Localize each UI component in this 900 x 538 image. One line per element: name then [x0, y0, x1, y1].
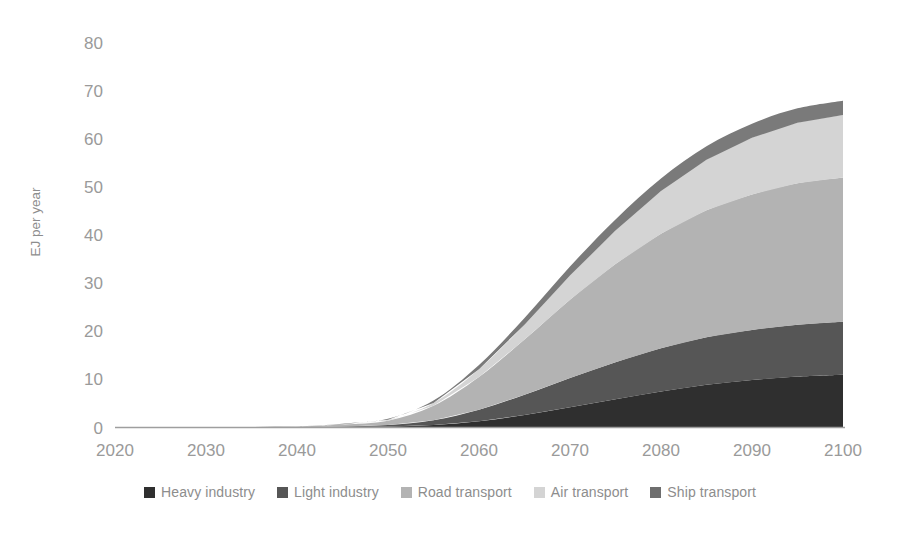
y-axis-tick-label: 70 [84, 82, 103, 101]
y-axis-tick-label: 60 [84, 130, 103, 149]
legend-item-label: Ship transport [667, 484, 756, 500]
legend-item-label: Road transport [418, 484, 512, 500]
chart-container: 80706050403020100 2020203020402050206020… [0, 0, 900, 538]
legend-item-air-transport[interactable]: Air transport [534, 484, 629, 500]
stacked-area-chart: 80706050403020100 2020203020402050206020… [0, 0, 900, 538]
y-axis-tick-label: 10 [84, 370, 103, 389]
legend-swatch-icon [144, 487, 155, 498]
legend-swatch-icon [650, 487, 661, 498]
legend-item-label: Light industry [294, 484, 379, 500]
y-axis-tick-label: 20 [84, 322, 103, 341]
x-axis-tick-label: 2050 [369, 441, 407, 460]
y-axis-tick-label: 80 [84, 34, 103, 53]
legend-swatch-icon [277, 487, 288, 498]
legend-item-road-transport[interactable]: Road transport [401, 484, 512, 500]
legend-item-light-industry[interactable]: Light industry [277, 484, 379, 500]
legend-swatch-icon [401, 487, 412, 498]
chart-legend: Heavy industryLight industryRoad transpo… [0, 484, 900, 500]
area-series-group [115, 101, 843, 428]
legend-swatch-icon [534, 487, 545, 498]
x-axis-tick-label: 2100 [824, 441, 862, 460]
x-axis-tick-label: 2030 [187, 441, 225, 460]
y-axis-tick-labels: 80706050403020100 [84, 34, 103, 438]
legend-item-label: Air transport [551, 484, 629, 500]
x-axis-tick-label: 2070 [551, 441, 589, 460]
x-axis-tick-label: 2040 [278, 441, 316, 460]
legend-item-label: Heavy industry [161, 484, 255, 500]
y-axis-tick-label: 0 [94, 419, 103, 438]
y-axis-tick-label: 30 [84, 274, 103, 293]
x-axis-tick-labels: 202020302040205020602070208020902100 [96, 441, 862, 460]
y-axis-tick-label: 50 [84, 178, 103, 197]
x-axis-tick-label: 2060 [460, 441, 498, 460]
x-axis-tick-label: 2090 [733, 441, 771, 460]
legend-item-heavy-industry[interactable]: Heavy industry [144, 484, 255, 500]
y-axis-title: EJ per year [28, 187, 43, 257]
x-axis-tick-label: 2080 [642, 441, 680, 460]
x-axis-tick-label: 2020 [96, 441, 134, 460]
legend-item-ship-transport[interactable]: Ship transport [650, 484, 756, 500]
y-axis-tick-label: 40 [84, 226, 103, 245]
